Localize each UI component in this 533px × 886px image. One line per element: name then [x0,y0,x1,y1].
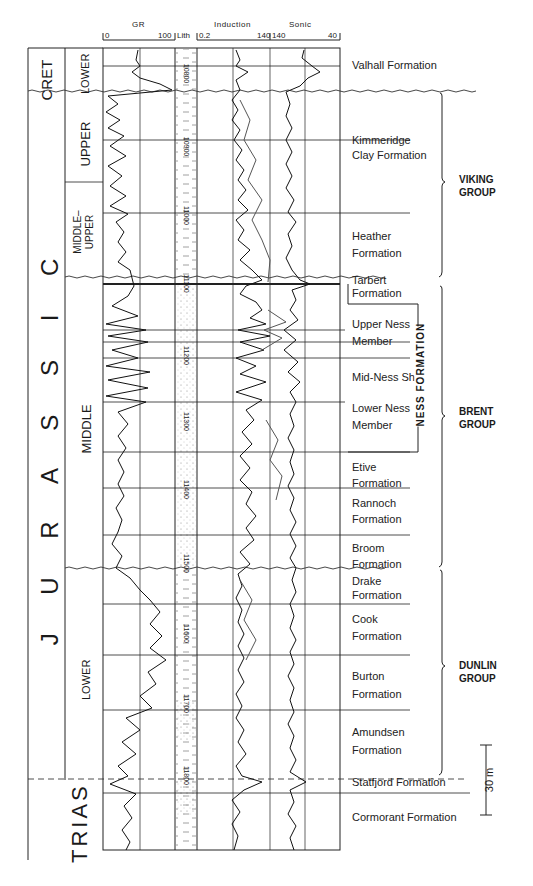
track-title-induction: Induction [214,20,251,29]
formation-statfjord: Statfjord Formation [352,775,446,790]
formation-burton: Burton Formation [352,667,422,703]
system-cret: CRET [38,41,55,101]
depth-label: 11000 [183,198,190,234]
group-brackets [348,93,492,815]
system-jurassic: J U R A S S I C [36,174,64,714]
header-scales [103,33,340,40]
formation-valhall: Valhall Formation [352,58,437,73]
series-lower-cret: LOWER [79,44,91,94]
formation-cormorant: Cormorant Formation [352,810,457,825]
formation-amundsen: Amundsen Formation [352,723,422,759]
formation-drake: Drake Formation [352,574,422,602]
depth-label: 11500 [183,546,190,582]
system-trias: TRIAS [67,783,93,863]
track-title-gr: GR [132,20,145,29]
depth-label: 10800 [183,56,190,92]
series-middle: MIDDLE [79,394,94,454]
sonic-max: 40 [328,31,337,40]
formation-heather: Heather Formation [352,228,422,262]
formation-etive: Etive Formation [352,459,422,491]
series-upper: UPPER [78,113,93,167]
sonic-min: 140 [272,31,285,40]
induction-max: 140 [257,31,270,40]
depth-label: 11300 [183,404,190,440]
series-lower-jur: LOWER [80,644,92,700]
group-brent: BRENT GROUP [459,405,519,431]
formation-cook: Cook Formation [352,611,422,645]
depth-label: 11100 [183,266,190,302]
member-upper-ness: Upper Ness Member [352,316,416,350]
induction-min: 0.2 [199,31,210,40]
depth-label: 11200 [183,338,190,374]
sonic-curve [284,50,320,850]
gr-curve [106,50,172,850]
track-title-lith: Lith [177,31,190,40]
group-viking: VIKING GROUP [459,173,519,199]
member-lower-ness: Lower Ness Member [352,400,416,434]
scale-bar-label: 30 m [483,765,495,795]
track-title-sonic: Sonic [289,20,312,29]
formation-rannoch: Rannoch Formation [352,495,422,527]
ness-formation-label: NESS FORMATION [415,327,426,427]
member-mid-ness-shale: Mid-Ness Sh. [352,370,418,385]
formation-tarbert: Tarbert Formation [352,274,422,300]
log-curves [106,50,320,850]
formation-kimmeridge-clay: Kimmeridge Clay Formation [352,133,432,163]
depth-label: 11600 [183,616,190,652]
depth-label: 10900 [183,129,190,165]
depth-label: 11400 [183,472,190,508]
depth-label: 11700 [183,686,190,722]
induction-curve [232,50,270,850]
depth-label: 11800 [183,758,190,794]
resistivity-deep-curve [240,100,286,660]
series-middle-upper: MIDDLE– UPPER [72,192,96,272]
gr-max: 100 [158,31,171,40]
group-dunlin: DUNLIN GROUP [459,659,519,685]
formation-broom: Broom Formation [352,540,422,572]
gr-min: 0 [105,31,109,40]
